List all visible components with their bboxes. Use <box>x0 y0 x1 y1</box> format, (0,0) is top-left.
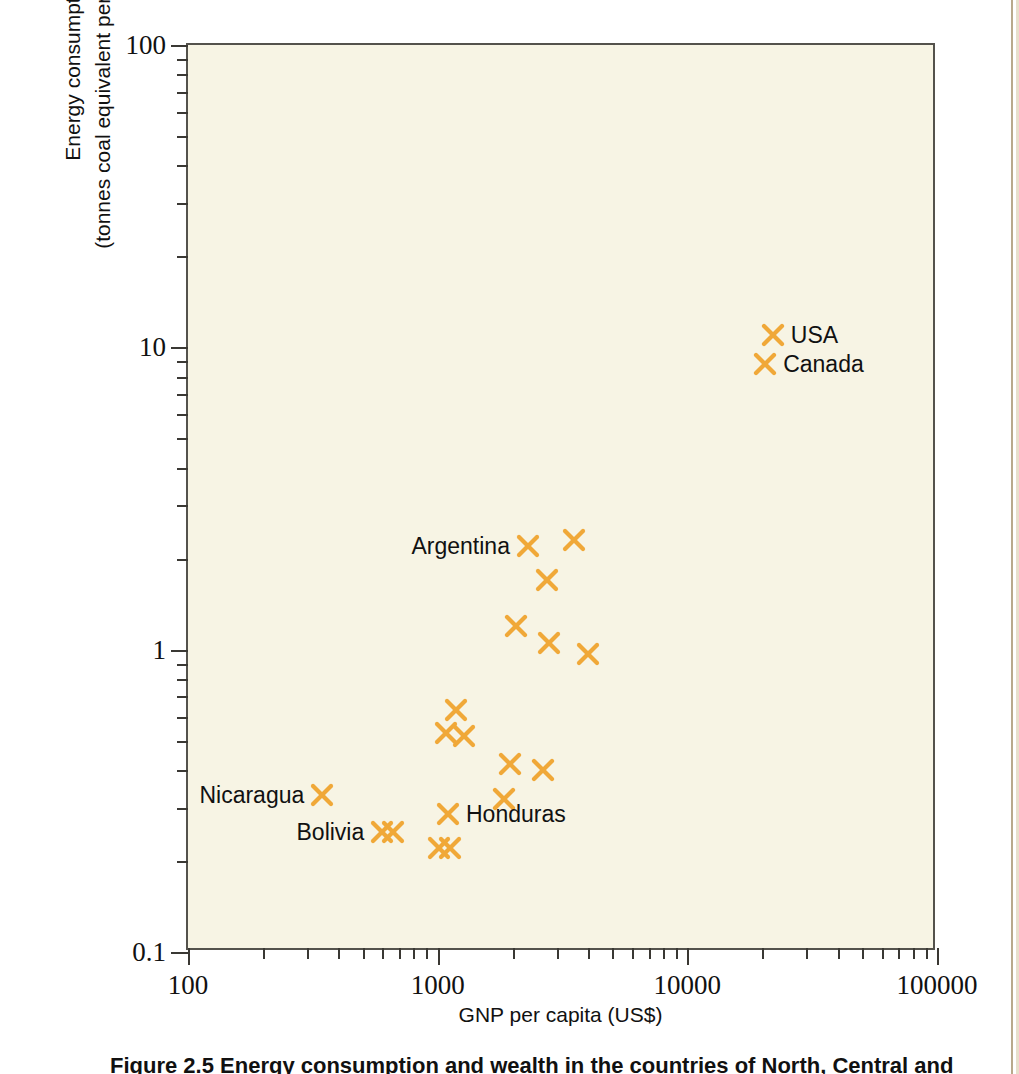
y-tick <box>177 394 188 396</box>
x-tick-label: 100000 <box>897 970 978 1001</box>
x-tick <box>557 948 559 959</box>
y-axis-title: Energy consumption (tonnes coal equivale… <box>58 0 118 280</box>
y-tick <box>177 203 188 205</box>
y-tick <box>177 468 188 470</box>
data-point <box>529 756 557 784</box>
x-tick <box>687 948 689 965</box>
page-edge-line <box>1011 0 1013 1074</box>
data-point-canada <box>751 350 779 378</box>
y-tick <box>177 112 188 114</box>
x-tick <box>838 948 840 959</box>
figure-root: Energy consumption (tonnes coal equivale… <box>0 0 1019 1074</box>
x-tick <box>663 948 665 959</box>
x-tick <box>263 948 265 959</box>
x-tick <box>438 948 440 965</box>
y-axis-title-line2: (tonnes coal equivalent per capita/year) <box>88 0 118 280</box>
y-tick <box>177 861 188 863</box>
x-tick <box>882 948 884 959</box>
y-axis-title-line1: Energy consumption <box>58 0 88 280</box>
plot-area: 0.1110100 100100010000100000 USACanadaAr… <box>186 43 935 950</box>
y-tick <box>177 165 188 167</box>
point-label-nicaragua: Nicaragua <box>199 784 304 807</box>
x-tick <box>913 948 915 959</box>
x-tick <box>363 948 365 959</box>
y-tick <box>177 136 188 138</box>
data-point <box>533 566 561 594</box>
x-tick <box>382 948 384 959</box>
x-tick <box>762 948 764 959</box>
y-tick <box>177 770 188 772</box>
point-label-argentina: Argentina <box>412 535 510 558</box>
x-tick <box>937 948 939 965</box>
data-point <box>560 526 588 554</box>
x-tick <box>632 948 634 959</box>
x-tick-label: 100 <box>168 970 209 1001</box>
y-tick <box>171 347 188 349</box>
x-tick <box>862 948 864 959</box>
data-point <box>442 696 470 724</box>
x-tick <box>307 948 309 959</box>
data-point-argentina <box>514 532 542 560</box>
x-tick <box>649 948 651 959</box>
point-label-usa: USA <box>791 323 838 346</box>
point-label-bolivia: Bolivia <box>297 820 365 843</box>
x-tick <box>338 948 340 959</box>
x-tick <box>426 948 428 959</box>
y-tick <box>177 59 188 61</box>
data-point <box>432 719 460 747</box>
y-tick-label: 100 <box>126 30 167 61</box>
data-point-usa <box>759 321 787 349</box>
data-point-nicaragua <box>308 781 336 809</box>
data-point <box>450 722 478 750</box>
figure-caption: Figure 2.5 Energy consumption and wealth… <box>110 1052 990 1074</box>
x-tick <box>926 948 928 959</box>
y-tick <box>177 664 188 666</box>
x-tick <box>612 948 614 959</box>
point-label-canada: Canada <box>783 353 864 376</box>
x-tick <box>188 948 190 965</box>
point-label-honduras: Honduras <box>466 803 566 826</box>
y-tick <box>177 74 188 76</box>
y-tick <box>177 438 188 440</box>
y-tick-label: 10 <box>139 332 166 363</box>
data-point <box>574 640 602 668</box>
y-tick <box>177 679 188 681</box>
x-tick <box>413 948 415 959</box>
y-tick-label: 1 <box>153 634 167 665</box>
y-tick <box>177 361 188 363</box>
data-point <box>502 612 530 640</box>
y-tick <box>177 256 188 258</box>
y-tick <box>171 45 188 47</box>
y-tick <box>177 559 188 561</box>
y-tick <box>171 650 188 652</box>
y-tick <box>177 505 188 507</box>
data-point-bolivia <box>368 818 396 846</box>
y-tick <box>177 808 188 810</box>
y-tick <box>177 377 188 379</box>
y-tick <box>177 696 188 698</box>
x-tick <box>399 948 401 959</box>
x-axis-title: GNP per capita (US$) <box>186 1003 935 1027</box>
y-tick <box>177 92 188 94</box>
data-point <box>436 834 464 862</box>
data-point-el-salvador <box>425 834 453 862</box>
x-tick <box>898 948 900 959</box>
y-tick <box>177 717 188 719</box>
data-point-honduras <box>434 800 462 828</box>
x-tick-label: 10000 <box>654 970 722 1001</box>
data-point <box>535 629 563 657</box>
x-tick <box>513 948 515 959</box>
y-tick <box>171 952 188 954</box>
y-tick-label: 0.1 <box>132 937 166 968</box>
data-point <box>379 818 407 846</box>
x-tick <box>806 948 808 959</box>
x-tick-label: 1000 <box>411 970 465 1001</box>
y-tick <box>177 741 188 743</box>
x-tick <box>588 948 590 959</box>
data-point <box>496 750 524 778</box>
y-tick <box>177 414 188 416</box>
x-tick <box>676 948 678 959</box>
